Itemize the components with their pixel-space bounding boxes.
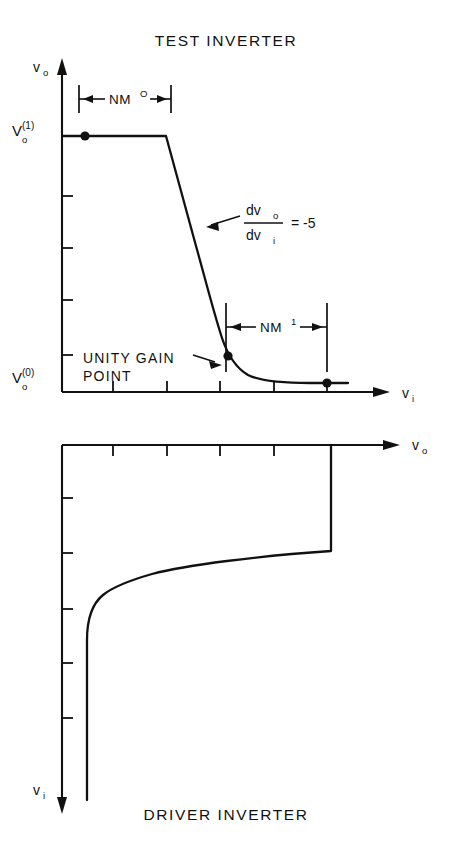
x-axis-label-sub: i [412, 393, 414, 404]
curve-marker-high [80, 131, 89, 140]
x-axis-arrowhead [373, 387, 390, 397]
nm0-arrowhead-right [157, 95, 167, 103]
bottom-chart-group: v o v i DRIVER INVERTER [33, 437, 427, 823]
bottom-chart-y-axis-label: v i [33, 782, 45, 801]
nm1-superscript: 1 [291, 316, 296, 327]
slope-value: = -5 [291, 215, 316, 231]
slope-denominator-sub: i [273, 235, 275, 246]
low-level-sub-o: o [22, 381, 27, 392]
curve-marker-low [322, 378, 331, 387]
low-level-V: V [12, 369, 22, 386]
unity-gain-point-annotation: UNITY GAIN POINT [83, 350, 222, 384]
bottom-chart-x-axis-label: v o [412, 437, 427, 456]
bottom-chart-title: DRIVER INVERTER [144, 806, 309, 823]
bottom-chart-y-ticks [62, 498, 73, 718]
test-inverter-curve [62, 136, 348, 383]
unity-gain-arrowhead [209, 361, 222, 369]
unity-gain-label-line2: POINT [83, 368, 132, 384]
bottom-y-axis-label-sub: i [43, 790, 45, 801]
nm1-arrowhead-right [312, 323, 323, 331]
slope-arrowhead [206, 222, 219, 231]
high-level-V: V [12, 122, 22, 139]
driver-inverter-curve [87, 445, 331, 800]
nm0-arrowhead-left [83, 95, 93, 103]
low-level-sup-0: (0) [22, 367, 34, 378]
bottom-chart-x-ticks [113, 445, 274, 456]
x-axis-label-main: v [402, 385, 409, 401]
top-chart-y-ticks [62, 136, 73, 355]
bottom-x-axis-arrowhead [383, 440, 400, 450]
top-chart-y-axis [57, 58, 67, 392]
noise-margin-high-bracket: NM 1 [226, 303, 327, 372]
nm0-superscript: O [140, 88, 147, 99]
slope-numerator-sub: o [273, 210, 278, 221]
top-chart-x-axis-label: v i [402, 385, 414, 404]
y-axis-label-sub: o [43, 67, 48, 78]
top-chart-low-level-label: V o (0) [12, 367, 34, 392]
nm1-label: NM [260, 320, 282, 335]
inverter-transfer-characteristics-figure: TEST INVERTER v o v i [0, 0, 452, 853]
unity-gain-label-line1: UNITY GAIN [83, 350, 175, 366]
bottom-x-axis-label-sub: o [422, 445, 427, 456]
y-axis-arrowhead [57, 58, 67, 75]
noise-margin-low-bracket: NM O [79, 85, 171, 113]
slope-numerator: dv [246, 202, 261, 218]
slope-denominator: dv [246, 227, 261, 243]
nm0-label: NM [109, 92, 131, 107]
top-chart-y-axis-label: v o [33, 59, 48, 78]
curve-marker-unity-gain [223, 351, 232, 360]
top-chart-group: TEST INVERTER v o v i [12, 32, 414, 404]
top-chart-x-axis [62, 387, 390, 397]
bottom-y-axis-label-main: v [33, 782, 40, 798]
top-chart-title: TEST INVERTER [155, 32, 298, 49]
bottom-y-axis-arrowhead [57, 797, 67, 814]
figure-container: TEST INVERTER v o v i [0, 0, 452, 853]
slope-annotation: dv o dv i = -5 [206, 202, 316, 246]
high-level-sub-o: o [22, 134, 27, 145]
high-level-sup-1: (1) [22, 120, 34, 131]
nm1-arrowhead-left [230, 323, 241, 331]
bottom-x-axis-label-main: v [412, 437, 419, 453]
y-axis-label-main: v [33, 59, 40, 75]
top-chart-high-level-label: V o (1) [12, 120, 34, 145]
bottom-chart-y-axis [57, 445, 67, 814]
